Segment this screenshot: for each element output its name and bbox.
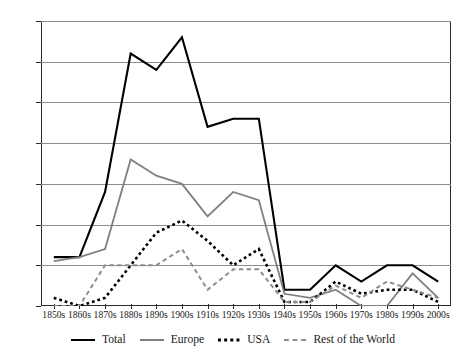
x-tick-label: 1900s — [170, 309, 193, 320]
x-tick-label: 1960s — [324, 309, 347, 320]
x-tick-label: 1870s — [94, 309, 117, 320]
x-tick-label: 1920s — [222, 309, 245, 320]
x-tick-label: 1980s — [375, 309, 398, 320]
x-tick-label: 1950s — [299, 309, 322, 320]
solid-gray-line-icon — [139, 336, 165, 344]
dotted-black-line-icon — [217, 336, 241, 344]
x-tick-label: 1880s — [119, 309, 142, 320]
legend-label: Europe — [171, 333, 204, 346]
series-line-total — [54, 37, 438, 289]
series-line-europe — [54, 159, 438, 306]
legend-item-rest-of-the-world[interactable]: Rest of the World — [283, 333, 395, 346]
x-tick-label: 1940s — [273, 309, 296, 320]
legend-item-usa[interactable]: USA — [217, 333, 270, 346]
legend-item-total[interactable]: Total — [70, 333, 126, 346]
x-tick-label: 1910s — [196, 309, 219, 320]
x-tick-label: 2000s — [427, 309, 450, 320]
legend-label: USA — [247, 333, 270, 346]
legend-label: Rest of the World — [313, 333, 395, 346]
solid-black-line-icon — [70, 336, 96, 344]
y-tick-mark — [36, 306, 41, 307]
line-chart: 05101520253035 1850s1860s1870s1880s1890s… — [0, 0, 465, 359]
x-tick-label: 1990s — [401, 309, 424, 320]
chart-legend: TotalEuropeUSARest of the World — [0, 333, 465, 346]
series-plot-layer — [41, 21, 451, 306]
x-tick-label: 1890s — [145, 309, 168, 320]
x-tick-label: 1930s — [247, 309, 270, 320]
x-axis: 1850s1860s1870s1880s1890s1900s1910s1920s… — [41, 309, 451, 329]
legend-item-europe[interactable]: Europe — [139, 333, 204, 346]
dashed-gray-line-icon — [283, 336, 307, 344]
x-tick-label: 1970s — [350, 309, 373, 320]
legend-label: Total — [102, 333, 126, 346]
x-tick-label: 1860s — [68, 309, 91, 320]
x-tick-label: 1850s — [42, 309, 65, 320]
series-line-usa — [54, 221, 438, 307]
